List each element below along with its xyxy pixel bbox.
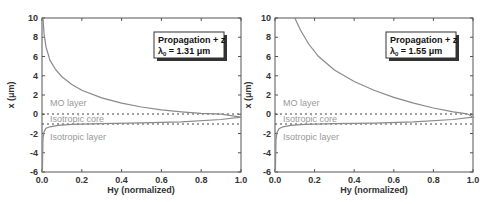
y-tick-label: -2 [30,129,38,139]
y-tick-label: 2 [33,90,38,100]
x-tick-label: 1.0 [467,175,480,185]
legend-line-1: Propagation + z [390,35,458,45]
x-tick-label: 0.6 [388,175,401,185]
y-tick-label: 4 [33,71,38,81]
x-tick-label: 0.0 [269,175,282,185]
y-tick-label: 10 [28,13,38,23]
x-tick-label: 0.8 [195,175,208,185]
region-label-isotropic: Isotropic layer [50,132,106,142]
x-tick-label: 0.0 [36,175,49,185]
legend-box: Propagation + z λ0 = 1.55 μm [386,32,459,61]
figure: 1086420-2-4-6 0.00.20.40.60.81.0 MO laye… [0,0,496,204]
x-tick-label: 0.4 [115,175,128,185]
y-tick-label: 8 [33,32,38,42]
x-axis-title: Hy (normalized) [340,185,408,195]
y-axis-title: x (μm) [243,81,253,108]
x-tick-label: 0.6 [155,175,168,185]
legend-line-1: Propagation + z [158,35,226,45]
y-tick-label: 0 [33,109,38,119]
chart-panel-right: 1086420-2-4-6 0.00.20.40.60.81.0 MO laye… [243,13,479,195]
chart-panel-left: 1086420-2-4-6 0.00.20.40.60.81.0 MO laye… [6,13,247,195]
region-label-isotropic: Isotropic layer [283,132,339,142]
x-axis-title: Hy (normalized) [107,185,175,195]
y-tick-label: 6 [266,52,271,62]
y-tick-label: 6 [33,52,38,62]
x-tick-label: 1.0 [235,175,248,185]
y-tick-label: 4 [266,71,271,81]
y-tick-label: -4 [30,148,38,158]
y-tick-label: -2 [263,129,271,139]
x-tick-label: 0.4 [348,175,361,185]
x-tick-label: 0.2 [76,175,89,185]
y-tick-label: 0 [266,109,271,119]
legend-box: Propagation + z λ0 = 1.31 μm [154,32,227,61]
y-tick-label: 8 [266,32,271,42]
region-label-core: Isotropic core [283,114,337,124]
y-tick-label: -4 [263,148,271,158]
y-axis-title: x (μm) [6,81,16,108]
y-tick-label: 10 [261,13,271,23]
region-label-core: Isotropic core [50,114,104,124]
legend-line-2: λ0 = 1.55 μm [390,46,442,57]
region-label-mo: MO layer [283,98,320,108]
x-tick-label: 0.2 [308,175,321,185]
legend-line-2: λ0 = 1.31 μm [158,46,210,57]
y-tick-label: 2 [266,90,271,100]
region-label-mo: MO layer [50,98,87,108]
x-tick-label: 0.8 [427,175,440,185]
